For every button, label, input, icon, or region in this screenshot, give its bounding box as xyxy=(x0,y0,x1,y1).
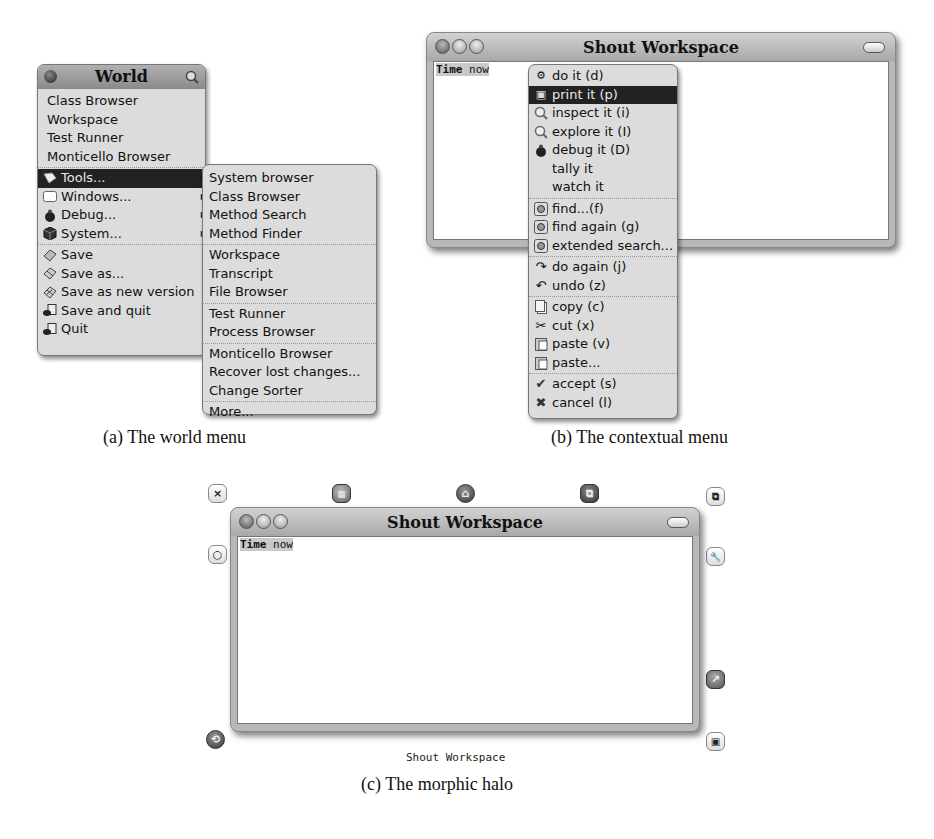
ctx-item-print-it[interactable]: ▣print it (p) xyxy=(529,86,677,105)
window-buttons xyxy=(435,39,484,54)
ctx-item-do-again[interactable]: ↷do again (j) xyxy=(529,258,677,277)
save-as-icon xyxy=(42,267,58,281)
halo-menu-handle[interactable]: ▦ xyxy=(332,484,351,503)
ctx-item-inspect-it[interactable]: inspect it (i) xyxy=(529,104,677,123)
world-menu-item-windows[interactable]: Windows... ▶ xyxy=(38,188,205,207)
find-icon xyxy=(533,202,549,216)
tools-item-method-finder[interactable]: Method Finder xyxy=(203,225,376,244)
ctx-item-find[interactable]: find...(f) xyxy=(529,200,677,219)
window-title-bar[interactable]: Shout Workspace xyxy=(427,33,895,61)
world-menu-item-save[interactable]: Save xyxy=(38,246,205,265)
menu-item-label: tally it xyxy=(552,160,593,179)
halo-shout-workspace-window[interactable]: Shout Workspace Time now xyxy=(230,507,700,732)
separator xyxy=(529,198,677,199)
save-icon xyxy=(42,248,58,262)
tools-item-recover-lost-changes[interactable]: Recover lost changes... xyxy=(203,363,376,382)
tools-item-test-runner[interactable]: Test Runner xyxy=(203,305,376,324)
minimize-button[interactable] xyxy=(256,514,271,529)
menu-item-label: undo (z) xyxy=(552,277,606,296)
resize-icon: ▣ xyxy=(711,736,720,747)
world-menu-item-save-as-new-version[interactable]: Save as new version xyxy=(38,283,205,302)
world-menu-item-test-runner[interactable]: Test Runner xyxy=(38,129,205,148)
tools-item-system-browser[interactable]: System browser xyxy=(203,169,376,188)
ctx-item-explore-it[interactable]: explore it (I) xyxy=(529,123,677,142)
halo-collapse-handle[interactable]: ○ xyxy=(208,545,227,564)
menu-item-label: Quit xyxy=(61,320,88,339)
halo-rotate-handle[interactable]: ⟲ xyxy=(206,730,225,749)
menu-item-label: Monticello Browser xyxy=(209,345,332,364)
tools-item-method-search[interactable]: Method Search xyxy=(203,206,376,225)
ctx-item-undo[interactable]: ↶undo (z) xyxy=(529,277,677,296)
world-menu-item-monticello-browser[interactable]: Monticello Browser xyxy=(38,148,205,167)
minimize-button[interactable] xyxy=(452,39,467,54)
close-button[interactable] xyxy=(239,514,254,529)
color-icon: ↗ xyxy=(711,673,720,686)
halo-debug-handle[interactable]: 🔧 xyxy=(706,547,725,566)
close-icon: × xyxy=(213,487,222,500)
tools-item-monticello-browser[interactable]: Monticello Browser xyxy=(203,345,376,364)
world-menu-item-workspace[interactable]: Workspace xyxy=(38,111,205,130)
world-menu-item-debug[interactable]: Debug... ▶ xyxy=(38,206,205,225)
menu-item-label: explore it (I) xyxy=(552,123,631,142)
halo-close-handle[interactable]: × xyxy=(208,484,227,503)
ctx-item-copy[interactable]: copy (c) xyxy=(529,298,677,317)
ctx-item-debug-it[interactable]: debug it (D) xyxy=(529,141,677,160)
world-menu-item-class-browser[interactable]: Class Browser xyxy=(38,92,205,111)
tools-item-more[interactable]: More... xyxy=(203,403,376,422)
world-menu-item-save-and-quit[interactable]: Save and quit xyxy=(38,302,205,321)
tools-item-file-browser[interactable]: File Browser xyxy=(203,283,376,302)
menu-item-label: watch it xyxy=(552,178,604,197)
close-icon[interactable] xyxy=(44,70,57,83)
separator xyxy=(529,296,677,297)
separator xyxy=(203,343,376,344)
ctx-item-paste[interactable]: paste (v) xyxy=(529,335,677,354)
tools-item-workspace[interactable]: Workspace xyxy=(203,246,376,265)
menu-item-label: accept (s) xyxy=(552,375,617,394)
ctx-item-paste-more[interactable]: paste... xyxy=(529,354,677,373)
tools-item-process-browser[interactable]: Process Browser xyxy=(203,323,376,342)
window-icon xyxy=(42,190,58,204)
ctx-item-watch-it[interactable]: watch it xyxy=(529,178,677,197)
menu-item-label: Class Browser xyxy=(209,188,300,207)
halo-drag-handle[interactable]: ⧉ xyxy=(580,484,599,503)
halo-grab-handle[interactable]: ⌂ xyxy=(456,484,475,503)
menu-button[interactable] xyxy=(667,517,689,528)
menu-button[interactable] xyxy=(863,42,885,53)
menu-item-label: Method Search xyxy=(209,206,307,225)
menu-item-label: System browser xyxy=(209,169,314,188)
menu-item-label: Workspace xyxy=(209,246,280,265)
ctx-item-cut[interactable]: ✂cut (x) xyxy=(529,317,677,336)
ctx-item-tally-it[interactable]: tally it xyxy=(529,160,677,179)
close-button[interactable] xyxy=(435,39,450,54)
ctx-item-accept[interactable]: ✔accept (s) xyxy=(529,375,677,394)
menu-item-label: cut (x) xyxy=(552,317,594,336)
expand-button[interactable] xyxy=(469,39,484,54)
halo-morph-name-label[interactable]: Shout Workspace xyxy=(406,751,505,764)
menu-item-label: do it (d) xyxy=(552,67,604,86)
pin-icon[interactable] xyxy=(185,70,199,84)
scissors-icon: ✂ xyxy=(533,319,549,333)
world-menu-item-system[interactable]: System... ▶ xyxy=(38,225,205,244)
menu-item-label: More... xyxy=(209,403,254,422)
window-title-bar[interactable]: Shout Workspace xyxy=(231,508,699,536)
system-icon xyxy=(42,227,58,241)
context-menu: ⚙do it (d) ▣print it (p) inspect it (i) … xyxy=(528,64,678,419)
world-menu-item-quit[interactable]: Quit xyxy=(38,320,205,339)
world-menu-item-save-as[interactable]: Save as... xyxy=(38,265,205,284)
halo-resize-handle[interactable]: ▣ xyxy=(706,732,725,751)
ctx-item-do-it[interactable]: ⚙do it (d) xyxy=(529,67,677,86)
tools-item-transcript[interactable]: Transcript xyxy=(203,265,376,284)
expand-button[interactable] xyxy=(273,514,288,529)
halo-duplicate-handle[interactable]: ⧉ xyxy=(706,487,725,506)
tools-item-class-browser[interactable]: Class Browser xyxy=(203,188,376,207)
workspace-text-area[interactable]: Time now xyxy=(237,536,693,724)
world-menu-item-tools[interactable]: Tools... ▶ xyxy=(38,169,205,188)
find-icon xyxy=(533,220,549,234)
menu-item-label: extended search... xyxy=(552,237,673,256)
menu-item-label: Test Runner xyxy=(209,305,285,324)
halo-color-handle[interactable]: ↗ xyxy=(706,670,725,689)
ctx-item-find-again[interactable]: find again (g) xyxy=(529,218,677,237)
tools-item-change-sorter[interactable]: Change Sorter xyxy=(203,382,376,401)
ctx-item-extended-search[interactable]: extended search... xyxy=(529,237,677,256)
ctx-item-cancel[interactable]: ✖cancel (l) xyxy=(529,394,677,413)
